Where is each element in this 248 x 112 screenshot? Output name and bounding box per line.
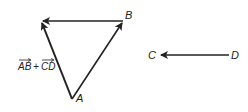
label-c: C [148, 49, 156, 61]
label-b: B [125, 9, 132, 21]
label-a: A [75, 92, 83, 104]
label-cd: CD [41, 61, 55, 72]
vector-diagram: B A C D AB + CD [0, 0, 248, 112]
label-plus: + [33, 61, 39, 72]
label-d: D [231, 49, 239, 61]
vector-ab [72, 23, 122, 99]
resultant-label: AB + CD [17, 59, 55, 73]
label-ab: AB [17, 61, 32, 72]
